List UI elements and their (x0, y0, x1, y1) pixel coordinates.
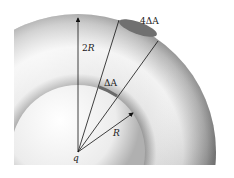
inner-area-label: ΔA (104, 78, 117, 88)
outer-area-label: 4ΔA (140, 16, 159, 26)
inner-radius-label: R (112, 128, 120, 138)
gauss-sphere-diagram: 2R 4ΔA ΔA R q (0, 0, 234, 178)
outer-radius-label: 2R (82, 43, 95, 53)
charge-label: q (73, 153, 79, 163)
